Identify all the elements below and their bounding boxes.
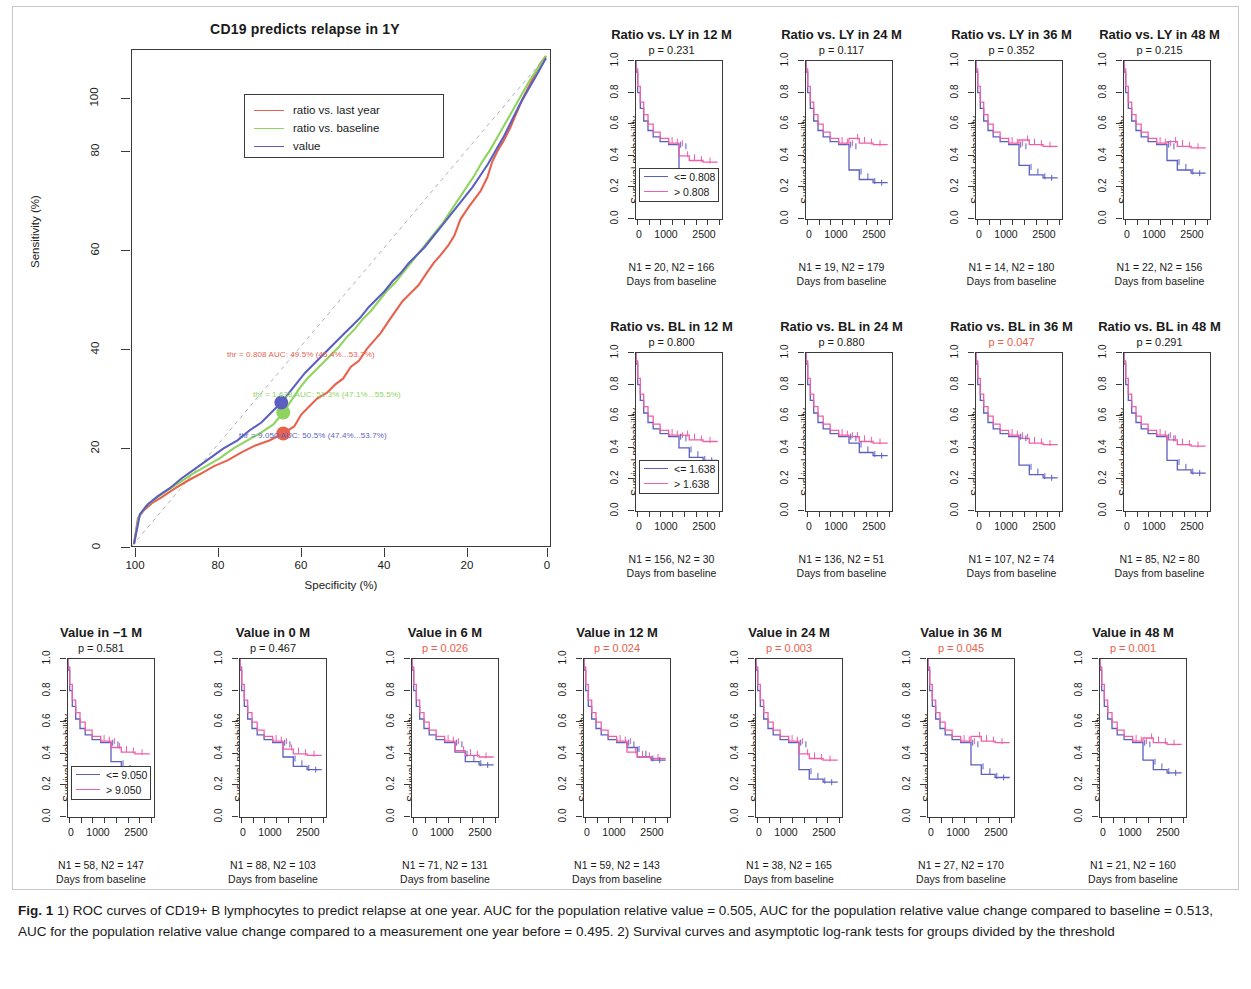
km-ytick-5-4: 0.8 xyxy=(779,376,790,390)
km-curves-3 xyxy=(1124,61,1210,219)
km-legend-row-low-0: <= 0.808 xyxy=(640,169,718,184)
km-sample-sizes-0: N1 = 20, N2 = 166 xyxy=(589,260,754,274)
km-curves-7 xyxy=(1124,353,1210,511)
km-panel-12: Value in 24 M p = 0.003 Survival probabi… xyxy=(709,625,869,886)
km-xtick-7-0: 0 xyxy=(1115,520,1139,532)
km-plot-2: Survival probability 0.0 0.2 0.4 0.6 0.8… xyxy=(929,60,1094,260)
km-xtick-0-1: 1000 xyxy=(649,228,683,240)
km-ytick-2-4: 0.8 xyxy=(949,84,960,98)
roc-ytick-80: 80 xyxy=(89,144,101,157)
km-ytick-7-3: 0.6 xyxy=(1097,408,1108,422)
km-ytick-12-4: 0.8 xyxy=(729,682,740,696)
km-plot-6: Survival probability 0.0 0.2 0.4 0.6 0.8… xyxy=(929,352,1094,552)
km-ytick-14-1: 0.2 xyxy=(1073,777,1084,791)
km-ytick-7-2: 0.4 xyxy=(1097,439,1108,453)
km-ytick-11-5: 1.0 xyxy=(557,651,568,665)
km-xtick-14-0: 0 xyxy=(1091,826,1115,838)
km-panel-4: Ratio vs. BL in 12 M p = 0.800 Survival … xyxy=(589,319,754,580)
km-xtick-9-2: 2500 xyxy=(291,826,325,838)
km-ytick-3-4: 0.8 xyxy=(1097,84,1108,98)
km-xtick-7-1: 1000 xyxy=(1137,520,1171,532)
km-ytick-12-1: 0.2 xyxy=(729,777,740,791)
km-plot-14: Survival probability 0.0 0.2 0.4 0.6 0.8… xyxy=(1053,658,1213,858)
km-ytick-1-3: 0.6 xyxy=(779,116,790,130)
roc-legend-label-2: value xyxy=(293,140,321,152)
km-xtick-2-0: 0 xyxy=(967,228,991,240)
km-ytick-13-0: 0.0 xyxy=(901,809,912,823)
km-title-8: Value in −1 M xyxy=(21,625,181,640)
km-x-axis-label-8: Days from baseline xyxy=(21,872,181,886)
legend-swatch-red xyxy=(254,110,284,111)
km-panel-0: Ratio vs. LY in 12 M p = 0.231 Survival … xyxy=(589,27,754,288)
km-curves-1 xyxy=(806,61,892,219)
km-ytick-11-2: 0.4 xyxy=(557,745,568,759)
km-panel-5: Ratio vs. BL in 24 M p = 0.880 Survival … xyxy=(759,319,924,580)
km-sample-sizes-8: N1 = 58, N2 = 147 xyxy=(21,858,181,872)
km-panel-14: Value in 48 M p = 0.001 Survival probabi… xyxy=(1053,625,1213,886)
km-xtick-11-1: 1000 xyxy=(597,826,631,838)
km-plot-8: Survival probability 0.0 0.2 0.4 0.6 0.8… xyxy=(21,658,181,858)
km-legend-swatch-low-8 xyxy=(76,774,100,775)
km-curves-9 xyxy=(240,659,326,817)
roc-annotation-blue: thr = 9.050 AUC: 50.5% (47.4%...53.7%) xyxy=(239,431,387,440)
km-curves-10 xyxy=(412,659,498,817)
figure-frame: CD19 predicts relapse in 1Y Sensitivity … xyxy=(12,6,1239,890)
km-plot-9: Survival probability 0.0 0.2 0.4 0.6 0.8… xyxy=(193,658,353,858)
km-plot-12: Survival probability 0.0 0.2 0.4 0.6 0.8… xyxy=(709,658,869,858)
km-ytick-10-1: 0.2 xyxy=(385,777,396,791)
km-sample-sizes-14: N1 = 21, N2 = 160 xyxy=(1053,858,1213,872)
km-ytick-1-4: 0.8 xyxy=(779,84,790,98)
km-ytick-10-0: 0.0 xyxy=(385,809,396,823)
km-xtick-5-2: 2500 xyxy=(857,520,891,532)
km-ytick-4-0: 0.0 xyxy=(609,503,620,517)
km-title-1: Ratio vs. LY in 24 M xyxy=(759,27,924,42)
roc-xtick-60: 60 xyxy=(281,559,321,571)
km-xtick-2-2: 2500 xyxy=(1027,228,1061,240)
km-xtick-1-0: 0 xyxy=(797,228,821,240)
km-sample-sizes-9: N1 = 88, N2 = 103 xyxy=(193,858,353,872)
km-title-7: Ratio vs. BL in 48 M xyxy=(1077,319,1242,334)
km-xtick-14-2: 2500 xyxy=(1151,826,1185,838)
km-ytick-8-0: 0.0 xyxy=(41,809,52,823)
km-plot-13: Survival probability 0.0 0.2 0.4 0.6 0.8… xyxy=(881,658,1041,858)
km-ytick-11-1: 0.2 xyxy=(557,777,568,791)
roc-ytick-100: 100 xyxy=(88,87,100,106)
km-xtick-4-0: 0 xyxy=(627,520,651,532)
km-plot-0: Survival probability 0.0 0.2 0.4 0.6 0.8… xyxy=(589,60,754,260)
km-ytick-8-5: 1.0 xyxy=(41,651,52,665)
km-title-10: Value in 6 M xyxy=(365,625,525,640)
km-curves-12 xyxy=(756,659,842,817)
km-panel-2: Ratio vs. LY in 36 M p = 0.352 Survival … xyxy=(929,27,1094,288)
km-ytick-10-4: 0.8 xyxy=(385,682,396,696)
km-ytick-8-1: 0.2 xyxy=(41,777,52,791)
km-ytick-1-2: 0.4 xyxy=(779,147,790,161)
km-ytick-14-4: 0.8 xyxy=(1073,682,1084,696)
km-ytick-13-3: 0.6 xyxy=(901,714,912,728)
km-plot-area-2 xyxy=(975,60,1063,220)
km-ytick-0-3: 0.6 xyxy=(609,116,620,130)
km-legend-swatch-high-0 xyxy=(644,191,668,192)
km-xtick-1-2: 2500 xyxy=(857,228,891,240)
km-ytick-5-1: 0.2 xyxy=(779,471,790,485)
km-title-4: Ratio vs. BL in 12 M xyxy=(589,319,754,334)
km-ytick-9-3: 0.6 xyxy=(213,714,224,728)
km-plot-area-10 xyxy=(411,658,499,818)
km-x-axis-label-0: Days from baseline xyxy=(589,274,754,288)
km-panel-1: Ratio vs. LY in 24 M p = 0.117 Survival … xyxy=(759,27,924,288)
roc-legend-label-0: ratio vs. last year xyxy=(293,104,380,116)
km-x-axis-label-9: Days from baseline xyxy=(193,872,353,886)
km-xtick-13-0: 0 xyxy=(919,826,943,838)
km-ytick-0-5: 1.0 xyxy=(609,53,620,67)
km-panel-3: Ratio vs. LY in 48 M p = 0.215 Survival … xyxy=(1077,27,1242,288)
roc-legend-item-ratio-baseline: ratio vs. baseline xyxy=(245,119,443,137)
km-xtick-6-1: 1000 xyxy=(989,520,1023,532)
km-ytick-4-2: 0.4 xyxy=(609,439,620,453)
km-ytick-12-3: 0.6 xyxy=(729,714,740,728)
km-ytick-14-0: 0.0 xyxy=(1073,809,1084,823)
km-ytick-4-1: 0.2 xyxy=(609,471,620,485)
km-ytick-3-1: 0.2 xyxy=(1097,179,1108,193)
km-ytick-8-4: 0.8 xyxy=(41,682,52,696)
km-ytick-14-2: 0.4 xyxy=(1073,745,1084,759)
km-x-axis-label-5: Days from baseline xyxy=(759,566,924,580)
roc-ytick-60: 60 xyxy=(89,243,101,256)
